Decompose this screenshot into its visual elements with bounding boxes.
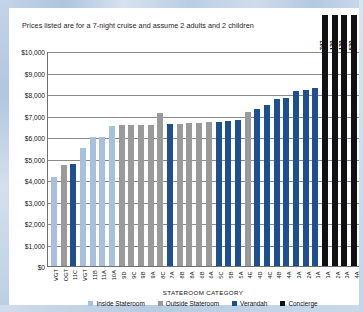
- y-axis-labels: $10,000$9,000$8,000$7,000$6,000$5,000$4,…: [9, 52, 45, 267]
- bar[interactable]: [90, 137, 96, 266]
- bar-cell: [223, 52, 233, 266]
- bar-cell: [349, 52, 359, 266]
- bar[interactable]: [235, 120, 241, 266]
- bar-cell: [107, 52, 117, 266]
- bar-cell: [262, 52, 272, 266]
- chart-plate: Prices listed are for a 7-night cruise a…: [9, 8, 359, 305]
- bar[interactable]: [254, 109, 260, 266]
- bar-cell: [291, 52, 301, 266]
- bar-cell: [117, 52, 127, 266]
- bar-cell: [311, 52, 321, 266]
- top-label-cell: [310, 17, 320, 51]
- bar[interactable]: [80, 148, 86, 266]
- bar[interactable]: [216, 122, 222, 266]
- x-tick-cell: 9C: [126, 268, 136, 288]
- bar[interactable]: [351, 15, 357, 266]
- bar-cell: [214, 52, 224, 266]
- bar[interactable]: [148, 125, 154, 266]
- bar[interactable]: [225, 121, 231, 266]
- bar-cell: [282, 52, 292, 266]
- top-label-cell: [291, 17, 301, 51]
- x-tick-cell: 9B: [135, 268, 145, 288]
- bar[interactable]: [274, 99, 280, 266]
- x-tick-cell: 4C: [262, 268, 272, 288]
- x-tick-cell: 1A: [310, 268, 320, 288]
- bar[interactable]: [245, 112, 251, 266]
- y-tick-label: $4,000: [25, 178, 45, 185]
- bar-cell: [330, 52, 340, 266]
- y-tick-label: $1,000: [25, 242, 45, 249]
- x-tick-cell: 2A: [301, 268, 311, 288]
- bar-cell: [175, 52, 185, 266]
- bar[interactable]: [99, 137, 105, 266]
- x-tick-cell: 2A: [330, 268, 340, 288]
- bar[interactable]: [167, 124, 173, 266]
- bar[interactable]: [70, 164, 76, 266]
- bar-cell: [97, 52, 107, 266]
- bar-series: [49, 52, 359, 266]
- legend-item[interactable]: Verandah: [232, 300, 267, 307]
- bar[interactable]: [186, 123, 192, 266]
- legend-label: Inside Stateroom: [96, 300, 144, 307]
- legend-item[interactable]: Concierge: [280, 300, 317, 307]
- bar[interactable]: [303, 90, 309, 266]
- x-tick-cell: 11C: [67, 268, 77, 288]
- bar-cell: [204, 52, 214, 266]
- x-tick-cell: 8C: [155, 268, 165, 288]
- y-tick-label: $0: [38, 264, 45, 271]
- legend-swatch-icon: [158, 301, 163, 306]
- x-tick-cell: VGT: [77, 268, 87, 288]
- bar[interactable]: [119, 125, 125, 266]
- bar[interactable]: [177, 124, 183, 266]
- chart-note: Prices listed are for a 7-night cruise a…: [22, 21, 254, 30]
- bar[interactable]: [332, 15, 338, 266]
- bar[interactable]: [51, 177, 57, 266]
- bar[interactable]: [157, 113, 163, 266]
- x-tick-cell: 9A: [145, 268, 155, 288]
- bar-cell: [136, 52, 146, 266]
- bar-cell: [272, 52, 282, 266]
- bar-cell: [146, 52, 156, 266]
- bar-cell: [68, 52, 78, 266]
- legend-item[interactable]: Outside Stateroom: [158, 300, 219, 307]
- bar[interactable]: [196, 123, 202, 266]
- x-tick-cell: 5A: [233, 268, 243, 288]
- x-tick-label: 4A: [354, 271, 360, 278]
- top-label-cell: [301, 17, 311, 51]
- bar[interactable]: [264, 105, 270, 266]
- bar[interactable]: [283, 98, 289, 266]
- bar-cell: [340, 52, 350, 266]
- bar-cell: [165, 52, 175, 266]
- x-tick-cell: 4D: [252, 268, 262, 288]
- top-label-cell: [281, 17, 291, 51]
- bar-cell: [301, 52, 311, 266]
- legend-label: Verandah: [240, 300, 267, 307]
- legend-swatch-icon: [280, 301, 285, 306]
- bar-cell: [320, 52, 330, 266]
- bar-cell: [49, 52, 59, 266]
- x-tick-cell: 8A: [184, 268, 194, 288]
- decorative-border-left: [0, 0, 9, 312]
- legend-swatch-icon: [232, 301, 237, 306]
- x-axis-labels: VGTOGT11CVGT11B11A10A9D9C9B9A8C7A8B8A6B6…: [48, 268, 359, 288]
- bar-cell: [88, 52, 98, 266]
- bar[interactable]: [138, 125, 144, 266]
- x-tick-cell: 4B: [272, 268, 282, 288]
- top-label-cell: [272, 17, 282, 51]
- y-tick-label: $8,000: [25, 92, 45, 99]
- bar[interactable]: [128, 125, 134, 266]
- x-tick-cell: OGT: [58, 268, 68, 288]
- bar[interactable]: [341, 15, 347, 266]
- bar[interactable]: [206, 122, 212, 266]
- screenshot-page: Prices listed are for a 7-night cruise a…: [0, 0, 363, 312]
- y-tick-label: $10,000: [21, 49, 45, 56]
- decorative-border-top: [0, 0, 363, 8]
- legend-item[interactable]: Inside Stateroom: [88, 300, 144, 307]
- bar[interactable]: [312, 88, 318, 266]
- bar[interactable]: [61, 165, 67, 266]
- bar[interactable]: [293, 91, 299, 266]
- bar[interactable]: [322, 15, 328, 266]
- bar[interactable]: [109, 126, 115, 266]
- y-tick-label: $9,000: [25, 70, 45, 77]
- plot-area: [47, 52, 359, 267]
